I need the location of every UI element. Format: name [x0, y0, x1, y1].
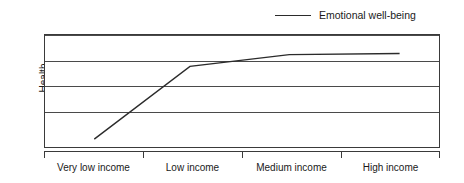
chart-legend: Emotional well-being — [275, 7, 416, 23]
legend-label: Emotional well-being — [319, 9, 416, 21]
x-axis-tick — [143, 152, 144, 158]
x-axis — [44, 151, 440, 152]
x-axis-tick — [44, 152, 45, 158]
x-axis-tick — [341, 152, 342, 158]
series-emotional-well-being — [45, 35, 439, 147]
chart-figure: Emotional well-being Health Very low inc… — [0, 0, 464, 183]
x-tick-label-high-income: High income — [331, 161, 451, 174]
x-axis-tick — [242, 152, 243, 158]
x-axis-tick — [439, 152, 440, 158]
legend-line-swatch-icon — [275, 15, 311, 16]
x-axis-tick-labels: Very low income Low income Medium income… — [44, 161, 440, 177]
plot-area — [44, 34, 440, 148]
series-polyline — [94, 53, 399, 139]
